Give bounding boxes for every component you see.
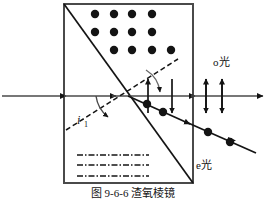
e-light-label: e光 xyxy=(196,158,212,171)
optic-axis-dot xyxy=(128,46,136,54)
optic-axis-dot xyxy=(91,10,99,18)
e-ray-dot xyxy=(143,100,151,108)
o-light-label: o光 xyxy=(213,55,230,68)
optic-axis-dot xyxy=(128,10,136,18)
figure-canvas: o光 e光 i 1 图 9-6-6 渣氧棱镜 xyxy=(0,0,267,199)
e-ray-dot xyxy=(159,108,167,116)
incidence-angle-subscript: 1 xyxy=(84,120,88,129)
e-ray-dot xyxy=(226,138,234,146)
optic-axis-dot xyxy=(148,10,156,18)
optic-axis-dot xyxy=(110,46,118,54)
figure-caption: 图 9-6-6 渣氧棱镜 xyxy=(91,186,175,199)
optic-axis-dot xyxy=(128,28,136,36)
optic-axis-dot xyxy=(110,28,118,36)
optics-figure-birefringence: o光 e光 i 1 图 9-6-6 渣氧棱镜 xyxy=(0,0,267,199)
optic-axis-dot xyxy=(110,10,118,18)
incidence-angle-symbol: i xyxy=(77,113,80,127)
e-ray-segment-outside xyxy=(186,122,256,153)
optic-axis-dot xyxy=(167,46,175,54)
optic-axis-dot xyxy=(148,28,156,36)
optic-axis-dot xyxy=(91,28,99,36)
optic-axis-dot xyxy=(148,46,156,54)
e-ray-dot xyxy=(204,128,212,136)
